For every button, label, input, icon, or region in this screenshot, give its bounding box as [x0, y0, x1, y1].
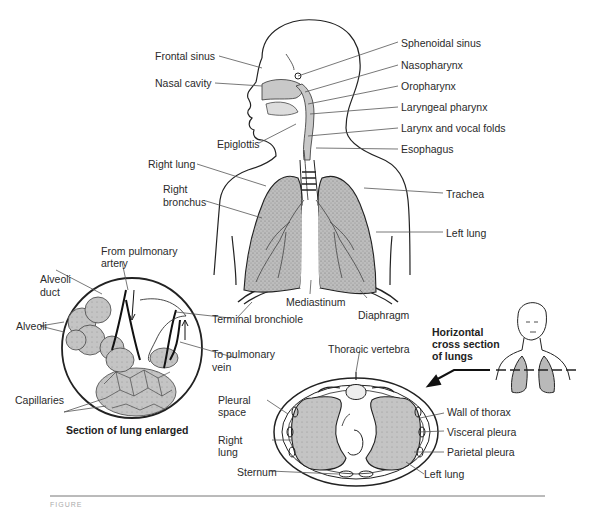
lungs	[244, 176, 376, 293]
label-visceral-pleura: Visceral pleura	[447, 426, 516, 438]
label-trachea: Trachea	[446, 188, 484, 200]
enlarged-section-title: Section of lung enlarged	[66, 424, 189, 436]
label-capillaries: Capillaries	[15, 394, 64, 406]
label-sphenoidal-sinus: Sphenoidal sinus	[401, 37, 481, 49]
label-terminal-bronchiole: Terminal bronchiole	[212, 313, 303, 325]
label-to-pulmonary-line1: To pulmonary	[212, 348, 275, 360]
label-larynx-vocal-folds: Larynx and vocal folds	[401, 122, 505, 134]
pointer-arrow	[428, 370, 490, 386]
label-pleural-space-line2: space	[218, 406, 246, 418]
label-thoracic-vertebra: Thoracic vertebra	[328, 343, 410, 355]
cross-section-title-line3: of lungs	[432, 350, 473, 362]
label-alveoli: Alveoli	[16, 320, 47, 332]
label-right-lung-cs-line1: Right	[218, 434, 243, 446]
label-frontal-sinus: Frontal sinus	[155, 50, 215, 62]
label-sternum: Sternum	[237, 466, 277, 478]
cross-section-title-line1: Horizontal	[432, 326, 483, 338]
label-wall-of-thorax: Wall of thorax	[447, 406, 511, 418]
label-mediastinum: Mediastinum	[286, 296, 346, 308]
label-from-pulmonary-line1: From pulmonary	[101, 245, 177, 257]
enlarged-lung-section	[62, 278, 202, 418]
label-left-lung: Left lung	[446, 227, 486, 239]
label-nasopharynx: Nasopharynx	[401, 59, 463, 71]
thorax-cross-section	[274, 372, 438, 486]
label-right-lung: Right lung	[148, 158, 195, 170]
label-parietal-pleura: Parietal pleura	[447, 446, 515, 458]
figure-caption-partial: FIGURE	[50, 499, 82, 511]
small-person-figure	[496, 303, 580, 393]
cross-section-title-line2: cross section	[432, 338, 500, 350]
label-left-lung-cs: Left lung	[424, 468, 464, 480]
label-epiglottis: Epiglottis	[217, 138, 260, 150]
label-nasal-cavity: Nasal cavity	[155, 77, 212, 89]
label-laryngeal-pharynx: Laryngeal pharynx	[401, 101, 487, 113]
label-esophagus: Esophagus	[401, 143, 454, 155]
label-from-pulmonary-line2: artery	[101, 257, 128, 269]
label-diaphragm: Diaphragm	[358, 309, 409, 321]
label-alveoli-duct-line2: duct	[40, 286, 60, 298]
label-right-bronchus-line2: bronchus	[163, 196, 206, 208]
label-right-lung-cs-line2: lung	[218, 446, 238, 458]
label-alveoli-duct-line1: Alveoli	[40, 273, 71, 285]
label-oropharynx: Oropharynx	[401, 80, 456, 92]
label-right-bronchus-line1: Right	[163, 183, 188, 195]
label-pleural-space-line1: Pleural	[218, 394, 251, 406]
label-to-pulmonary-line2: vein	[212, 361, 231, 373]
